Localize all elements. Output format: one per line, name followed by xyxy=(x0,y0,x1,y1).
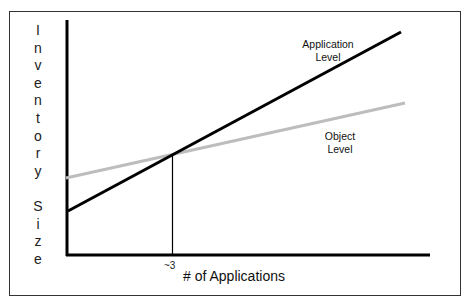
label-line: Level xyxy=(296,51,360,64)
application-level-label: Application Level xyxy=(296,38,360,64)
label-line: Level xyxy=(318,143,362,156)
label-line: Object xyxy=(318,130,362,143)
chart-plot xyxy=(0,0,468,304)
x-tick-label: ~3 xyxy=(164,260,175,271)
x-axis-label: # of Applications xyxy=(183,268,285,284)
label-line: Application xyxy=(296,38,360,51)
object-level-label: Object Level xyxy=(318,130,362,156)
